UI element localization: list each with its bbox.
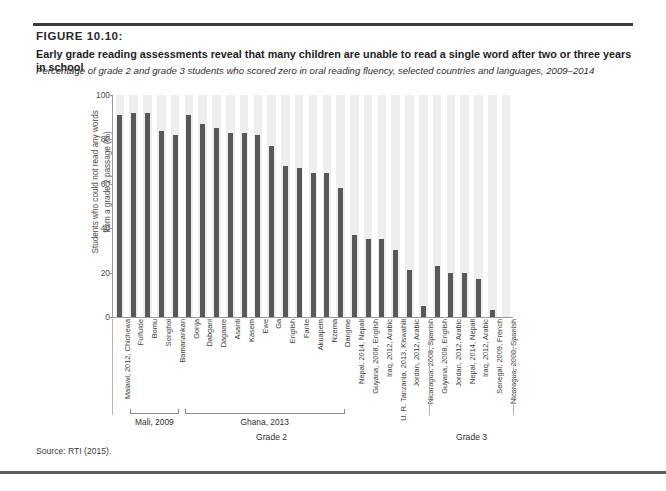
x-axis-label: Gonja [192,319,201,339]
bar[interactable] [242,133,247,317]
y-axis-tick [109,95,113,96]
x-axis-label: Akuapem [316,319,325,350]
x-axis-label: Iraq, 2012, Arabic [481,319,490,377]
group-bracket [185,409,345,414]
group-bracket [130,409,180,414]
bar[interactable] [159,131,164,317]
y-axis-tick [109,317,113,318]
x-axis-label: Nepal, 2014, Nepali [357,319,366,384]
bar[interactable] [214,128,219,317]
bar[interactable] [338,188,343,317]
x-axis-label: Jordan, 2012, Arabic [412,319,421,387]
bottom-rule [0,471,666,474]
x-axis-label: Songhoi [164,319,173,346]
x-axis-label: Dabgani [205,319,214,347]
bar[interactable] [352,235,357,317]
bar[interactable] [117,115,122,317]
y-axis-title-wrap: Students who could not read any words fr… [56,130,76,220]
bar[interactable] [462,273,467,317]
y-axis-tick-label: 0 [88,312,110,322]
bar[interactable] [269,146,274,317]
x-axis-label: Asanti [233,319,242,340]
group-label: Ghana, 2013 [241,417,289,427]
x-axis-label: U. R. Tanzania, 2013, Kiswahili [399,319,408,421]
bar[interactable] [490,310,495,317]
y-axis-tick [109,228,113,229]
category-band [488,95,497,317]
group-label: Mali, 2009 [135,417,174,427]
bar[interactable] [324,173,329,317]
x-axis-label: Ewe [261,319,270,333]
y-axis-tick-label: 100 [88,90,110,100]
figure-subtitle: Percentage of grade 2 and grade 3 studen… [36,65,648,77]
bar[interactable] [448,273,453,317]
x-axis-label: Kasem [247,319,256,342]
x-axis-line [112,317,513,318]
y-axis-tick [109,139,113,140]
figure-page: FIGURE 10.10: Early grade reading assess… [0,0,666,491]
x-axis-label: Guyana, 2008, English [371,319,380,394]
grade-section-label: Grade 3 [456,432,487,442]
bar[interactable] [393,250,398,317]
x-axis-label: Bamanankan [178,319,187,363]
y-axis-tick-label: 60 [88,179,110,189]
bar[interactable] [131,113,136,317]
bar[interactable] [173,135,178,317]
bar[interactable] [435,266,440,317]
y-axis-tick-label: 80 [88,134,110,144]
bar[interactable] [421,306,426,317]
category-band [502,95,511,317]
x-axis-label: Fulfulde [136,319,145,345]
y-axis-line [112,95,113,317]
bar[interactable] [255,135,260,317]
x-axis-label: Dagaare [219,319,228,347]
y-axis-tick-label: 20 [88,268,110,278]
y-axis-labels: 020406080100 [84,95,110,317]
x-axis-label: Senegal, 2009, French [495,319,504,394]
y-axis-tick-label: 40 [88,223,110,233]
bar[interactable] [297,168,302,317]
bar[interactable] [407,270,412,317]
bar[interactable] [186,115,191,317]
x-axis-label: Bomu [150,319,159,338]
grade-section-divider [429,319,430,415]
x-axis-label: Nzema [330,319,339,342]
source-note: Source: RTI (2015). [36,446,111,456]
x-axis-label: Dangme [343,319,352,347]
bar[interactable] [283,166,288,317]
top-rule [33,23,633,26]
bar[interactable] [379,239,384,317]
y-axis-tick [109,273,113,274]
bar[interactable] [311,173,316,317]
figure-number: FIGURE 10.10: [36,30,123,42]
bar[interactable] [145,113,150,317]
x-axis-labels: Malawi, 2012, ChichewaFulfuldeBomuSongho… [113,319,513,407]
x-labels-right-edge [513,319,514,415]
x-axis-label: Fante [302,319,311,338]
bar[interactable] [200,124,205,317]
bar[interactable] [476,279,481,317]
grade-section-label: Grade 2 [256,432,287,442]
plot-area [113,95,513,317]
x-axis-label: Iraq, 2012, Arabic [385,319,394,377]
x-axis-label: Nepal, 2014, Nepali [468,319,477,384]
x-axis-label: Jordan, 2012, Arabic [454,319,463,387]
x-axis-label: Malawi, 2012, Chichewa [123,319,132,399]
x-axis-label: English [288,319,297,343]
bar[interactable] [366,239,371,317]
y-axis-tick [109,184,113,185]
category-band [419,95,428,317]
x-labels-left-edge [112,319,113,415]
bar[interactable] [228,133,233,317]
x-axis-label: Guyana, 2008, English [440,319,449,394]
x-axis-label: Nicaragua, 2008, Spanish [426,319,435,404]
x-axis-label: Ga [274,319,283,329]
